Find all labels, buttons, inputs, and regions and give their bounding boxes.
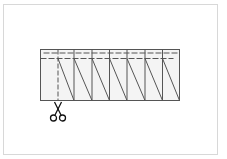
pleat-diagram — [0, 0, 227, 159]
